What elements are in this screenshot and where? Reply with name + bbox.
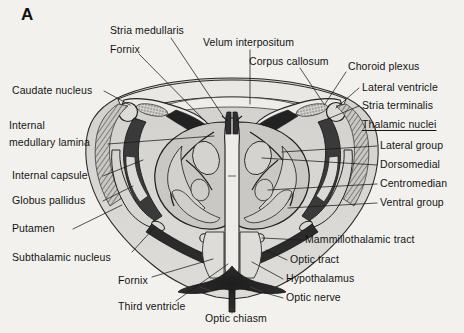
- label-caudate-nucleus: Caudate nucleus: [12, 84, 92, 96]
- label-hypothalamus: Hypothalamus: [286, 272, 354, 284]
- label-fornix-top: Fornix: [110, 43, 140, 55]
- label-optic-chiasm: Optic chiasm: [205, 312, 267, 324]
- label-velum-interpositum: Velum interpositum: [203, 36, 294, 48]
- label-thalamic-nuclei: Thalamic nuclei: [362, 118, 436, 130]
- label-stria-terminalis: Stria terminalis: [362, 99, 433, 111]
- label-mammillothalamic-tract: Mammillothalamic tract: [305, 233, 415, 245]
- label-internal-medullary-lamina-line1: Internal: [9, 119, 45, 131]
- label-third-ventricle: Third ventricle: [118, 300, 185, 312]
- third-ventricle-shape: [225, 118, 240, 284]
- label-optic-nerve: Optic nerve: [286, 291, 341, 303]
- label-lateral-ventricle: Lateral ventricle: [362, 81, 438, 93]
- label-fornix-bottom: Fornix: [118, 274, 148, 286]
- label-corpus-callosum: Corpus callosum: [249, 55, 329, 67]
- label-choroid-plexus: Choroid plexus: [348, 60, 419, 72]
- label-internal-medullary-lamina-line2: medullary lamina: [9, 136, 90, 148]
- label-centromedian: Centromedian: [380, 177, 447, 189]
- label-dorsomedial: Dorsomedial: [380, 158, 440, 170]
- label-subthalamic-nucleus: Subthalamic nucleus: [12, 251, 111, 263]
- label-stria-medullaris: Stria medullaris: [110, 24, 184, 36]
- label-putamen: Putamen: [12, 222, 55, 234]
- panel-letter: A: [21, 5, 33, 25]
- label-optic-tract: Optic tract: [290, 253, 339, 265]
- label-ventral-group: Ventral group: [380, 196, 444, 208]
- label-globus-pallidus: Globus pallidus: [12, 194, 85, 206]
- label-lateral-group: Lateral group: [380, 139, 443, 151]
- label-internal-capsule: Internal capsule: [12, 169, 88, 181]
